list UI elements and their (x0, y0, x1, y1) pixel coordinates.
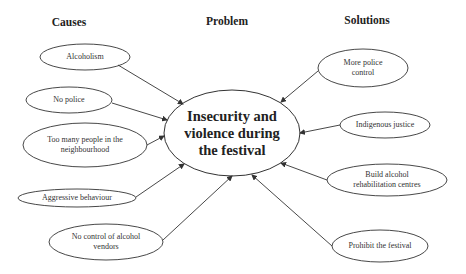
arrow-more-police-control-to-problem (281, 71, 318, 102)
arrow-alcoholism-to-problem (118, 65, 183, 104)
arrow-no-control-vendors-to-problem (163, 176, 232, 240)
problem-node-label: Insecurity and violence during the festi… (184, 108, 279, 159)
arrow-no-police-to-problem (112, 103, 167, 120)
solution-node-prohibit-festival: Prohibit the festival (348, 241, 411, 251)
cause-node-no-control-vendors: No control of alcohol vendors (72, 232, 141, 252)
arrow-aggressive-behaviour-to-problem (136, 164, 184, 197)
cause-node-too-many-people: Too many people in the neighbourhood (47, 135, 122, 155)
cause-problem-solution-diagram: Causes Problem Solutions Insecurity and … (0, 0, 466, 274)
arrow-indigenous-justice-to-problem (300, 125, 340, 133)
solution-node-more-police-control: More police control (344, 58, 383, 78)
header-causes: Causes (52, 16, 87, 28)
cause-node-aggressive-behaviour: Aggressive behaviour (42, 193, 112, 203)
arrow-prohibit-festival-to-problem (252, 175, 332, 246)
header-solutions: Solutions (344, 14, 389, 26)
solution-node-build-rehab-centres: Build alcohol rehabilitation centres (353, 170, 420, 190)
arrow-too-many-people-to-problem (147, 136, 164, 145)
header-problem: Problem (206, 15, 248, 27)
cause-node-no-police: No police (53, 95, 84, 105)
cause-node-alcoholism: Alcoholism (66, 52, 103, 62)
solution-node-indigenous-justice: Indigenous justice (356, 120, 414, 130)
arrow-build-rehab-centres-to-problem (281, 163, 327, 180)
